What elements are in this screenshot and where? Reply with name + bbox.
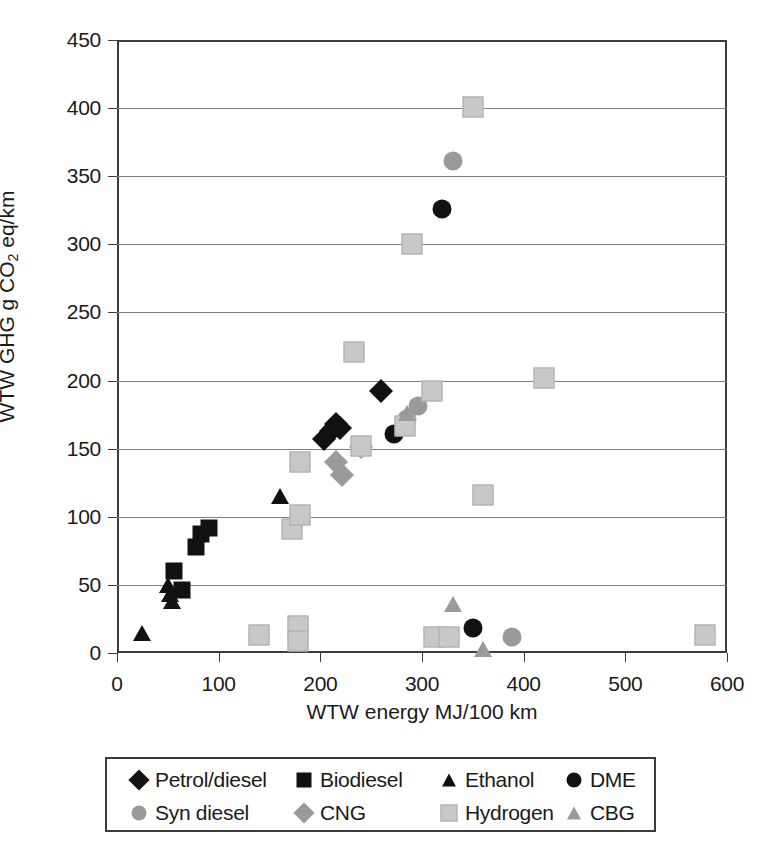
legend-item-syn-diesel[interactable]: Syn diesel xyxy=(127,801,249,825)
data-point xyxy=(462,96,483,117)
data-point xyxy=(401,234,422,255)
right-spine xyxy=(725,40,727,653)
data-point xyxy=(351,435,372,456)
legend-label: Syn diesel xyxy=(155,802,249,823)
data-point xyxy=(439,626,460,647)
scatter-chart-figure: 050100150200250300350400450 010020030040… xyxy=(0,0,766,848)
y-tick-mark-450 xyxy=(108,40,117,41)
y-axis-title: WTW GHG g CO2 eq/km xyxy=(0,0,22,613)
legend-item-cbg[interactable]: CBG xyxy=(562,801,635,825)
data-point xyxy=(463,619,482,638)
data-point xyxy=(534,367,555,388)
plot-area xyxy=(117,40,727,653)
legend-marker-diamond-icon xyxy=(292,801,316,825)
legend-marker-square-icon xyxy=(292,768,316,792)
gridline-y-400 xyxy=(117,108,727,109)
gridline-y-50 xyxy=(117,585,727,586)
data-point xyxy=(290,452,311,473)
x-axis-title: WTW energy MJ/100 km xyxy=(117,700,727,724)
y-tick-label-0: 0 xyxy=(0,642,101,663)
x-tick-mark-0 xyxy=(117,653,118,662)
legend-label: Petrol/diesel xyxy=(155,769,267,790)
x-tick-mark-100 xyxy=(219,653,220,662)
legend-marker-triangle-icon xyxy=(562,801,586,825)
y-tick-mark-100 xyxy=(108,517,117,518)
legend-item-ethanol[interactable]: Ethanol xyxy=(437,768,534,792)
data-point xyxy=(271,488,289,504)
top-spine xyxy=(117,40,727,42)
x-tick-label-400: 400 xyxy=(507,673,541,694)
x-tick-mark-300 xyxy=(422,653,423,662)
legend-label: Hydrogen xyxy=(465,802,554,823)
legend-marker-circle-icon xyxy=(562,768,586,792)
data-point xyxy=(163,593,181,609)
x-tick-label-500: 500 xyxy=(608,673,642,694)
y-tick-mark-300 xyxy=(108,244,117,245)
x-tick-label-200: 200 xyxy=(303,673,337,694)
gridline-y-100 xyxy=(117,517,727,518)
data-point xyxy=(249,625,270,646)
chart-legend: Petrol/dieselBiodieselEthanolDME Syn die… xyxy=(105,757,656,832)
gridline-y-250 xyxy=(117,312,727,313)
legend-row-2: Syn dieselCNGHydrogenCBG xyxy=(107,796,654,829)
data-point xyxy=(369,379,393,403)
x-tick-mark-400 xyxy=(524,653,525,662)
legend-item-dme[interactable]: DME xyxy=(562,768,636,792)
legend-label: CNG xyxy=(320,802,366,823)
x-tick-mark-500 xyxy=(625,653,626,662)
y-tick-mark-250 xyxy=(108,312,117,313)
y-axis-line xyxy=(117,40,119,653)
data-point xyxy=(503,627,522,646)
x-tick-mark-200 xyxy=(320,653,321,662)
data-point xyxy=(694,625,715,646)
y-tick-mark-200 xyxy=(108,381,117,382)
legend-label: Biodiesel xyxy=(320,769,403,790)
legend-label: DME xyxy=(590,769,636,790)
x-tick-label-100: 100 xyxy=(202,673,236,694)
y-tick-mark-50 xyxy=(108,585,117,586)
legend-item-hydrogen[interactable]: Hydrogen xyxy=(437,801,554,825)
legend-marker-diamond-icon xyxy=(127,768,151,792)
data-point xyxy=(287,630,308,651)
legend-marker-triangle-icon xyxy=(437,768,461,792)
data-point xyxy=(422,381,443,402)
x-tick-mark-600 xyxy=(727,653,728,662)
data-point xyxy=(133,625,151,641)
x-tick-label-300: 300 xyxy=(405,673,439,694)
legend-item-cng[interactable]: CNG xyxy=(292,801,366,825)
data-point xyxy=(473,484,494,505)
x-tick-label-0: 0 xyxy=(111,673,122,694)
y-tick-mark-150 xyxy=(108,449,117,450)
legend-label: CBG xyxy=(590,802,635,823)
data-point xyxy=(433,199,452,218)
y-tick-mark-350 xyxy=(108,176,117,177)
data-point xyxy=(290,505,311,526)
data-point xyxy=(398,405,416,421)
legend-label: Ethanol xyxy=(465,769,534,790)
x-tick-label-600: 600 xyxy=(710,673,744,694)
gridline-y-350 xyxy=(117,176,727,177)
data-point xyxy=(200,519,217,536)
legend-marker-circle-icon xyxy=(127,801,151,825)
y-tick-mark-400 xyxy=(108,108,117,109)
data-point xyxy=(444,596,462,612)
legend-item-biodiesel[interactable]: Biodiesel xyxy=(292,768,403,792)
legend-item-petrol-diesel[interactable]: Petrol/diesel xyxy=(127,768,267,792)
y-tick-mark-0 xyxy=(108,653,117,654)
data-point xyxy=(474,641,492,657)
gridline-y-150 xyxy=(117,449,727,450)
legend-marker-square-icon xyxy=(437,801,461,825)
data-point xyxy=(443,152,462,171)
legend-row-1: Petrol/dieselBiodieselEthanolDME xyxy=(107,763,654,796)
data-point xyxy=(343,341,364,362)
